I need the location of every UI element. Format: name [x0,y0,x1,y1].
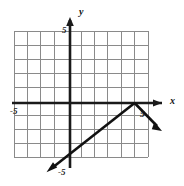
x-axis-label: x [169,95,175,106]
y-axis-tick-label-5: 5 [62,25,67,35]
y-axis-label: y [78,6,84,17]
graph-figure: y x 5 -5 5 -5 [0,0,184,186]
x-axis-tick-label-negative-5: -5 [10,106,18,116]
x-axis-tick-label-5: 5 [140,109,145,119]
y-axis-tick-label-negative-5: -5 [58,167,66,177]
coordinate-plane-svg: y x 5 -5 5 -5 [0,0,184,186]
